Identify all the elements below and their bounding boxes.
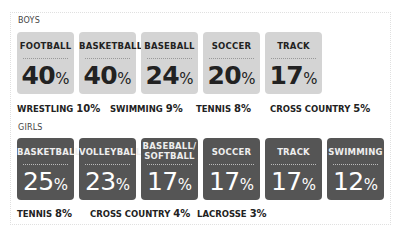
tile-value: 25 — [23, 167, 54, 196]
tile-value: 40 — [21, 61, 55, 90]
tile-name: SOCCER — [203, 147, 260, 157]
boys-tile-basketball: BASKETBALL 40% — [79, 32, 136, 94]
tile-unit: % — [55, 70, 69, 88]
tile-unit: % — [240, 176, 254, 194]
boys-other-tennis: TENNIS 8% — [196, 103, 251, 114]
tile-name: BASEBALL — [141, 41, 198, 51]
tile-value: 40 — [83, 61, 117, 90]
tile-divider — [271, 58, 316, 59]
tile-unit: % — [116, 176, 130, 194]
other-name: CROSS COUNTRY — [90, 209, 170, 219]
tile-name: TRACK — [265, 41, 322, 51]
tile-divider — [209, 58, 254, 59]
tile-divider — [23, 58, 68, 59]
girls-other-cross-country: CROSS COUNTRY 4% — [90, 208, 190, 219]
tile-divider — [209, 164, 254, 165]
tile-name-line2: SOFTBALL — [144, 151, 194, 161]
tile-value: 20 — [207, 61, 241, 90]
other-value: 8% — [55, 208, 72, 219]
tile-unit: % — [179, 70, 193, 88]
other-name: LACROSSE — [197, 209, 247, 219]
tile-name: VOLLEYBALL — [79, 147, 136, 157]
boys-other-cross-country: CROSS COUNTRY 5% — [270, 103, 370, 114]
boys-tile-track: TRACK 17% — [265, 32, 322, 94]
tile-value: 17 — [271, 167, 302, 196]
girls-tile-track: TRACK 17% — [265, 138, 322, 200]
tile-name: FOOTBALL — [17, 41, 74, 51]
tile-unit: % — [117, 70, 131, 88]
tile-unit: % — [178, 176, 192, 194]
tile-divider — [147, 58, 192, 59]
boys-other-wrestling: WRESTLING 10% — [17, 103, 100, 114]
boys-section-label: BOYS — [18, 16, 40, 25]
tile-divider — [147, 164, 192, 165]
other-value: 8% — [234, 103, 251, 114]
girls-tile-swimming: SWIMMING 12% — [327, 138, 384, 200]
other-name: CROSS COUNTRY — [270, 104, 350, 114]
tile-unit: % — [54, 176, 68, 194]
tile-unit: % — [303, 70, 317, 88]
tile-value: 17 — [269, 61, 303, 90]
girls-tile-baseball-softball: BASEBALL/SOFTBALL 17% — [141, 138, 198, 200]
tile-name: SWIMMING — [327, 147, 384, 157]
tile-divider — [23, 164, 68, 165]
tile-value: 17 — [147, 167, 178, 196]
tile-name-line1: BASEBALL/ — [143, 141, 197, 151]
tile-value: 23 — [85, 167, 116, 196]
tile-unit: % — [364, 176, 378, 194]
tile-unit: % — [241, 70, 255, 88]
girls-tile-soccer: SOCCER 17% — [203, 138, 260, 200]
girls-other-lacrosse: LACROSSE 3% — [197, 208, 267, 219]
tile-name: BASKETBALL — [79, 41, 136, 51]
tile-name: SOCCER — [203, 41, 260, 51]
girls-section-label: GIRLS — [18, 123, 43, 132]
other-value: 4% — [173, 208, 190, 219]
other-value: 5% — [353, 103, 370, 114]
boys-tile-football: FOOTBALL 40% — [17, 32, 74, 94]
tile-unit: % — [302, 176, 316, 194]
tile-divider — [271, 164, 316, 165]
boys-other-swimming: SWIMMING 9% — [110, 103, 183, 114]
other-value: 9% — [166, 103, 183, 114]
other-name: TENNIS — [17, 209, 52, 219]
tile-divider — [85, 164, 130, 165]
girls-tile-basketball: BASKETBALL 25% — [17, 138, 74, 200]
tile-value: 17 — [209, 167, 240, 196]
girls-other-tennis: TENNIS 8% — [17, 208, 72, 219]
other-value: 10% — [76, 103, 100, 114]
tile-name: BASKETBALL — [17, 147, 74, 157]
other-name: WRESTLING — [17, 104, 73, 114]
tile-divider — [85, 58, 130, 59]
tile-name: BASEBALL/SOFTBALL — [141, 141, 198, 161]
tile-value: 12 — [333, 167, 364, 196]
tile-value: 24 — [145, 61, 179, 90]
other-name: TENNIS — [196, 104, 231, 114]
boys-tile-baseball: BASEBALL 24% — [141, 32, 198, 94]
other-name: SWIMMING — [110, 104, 163, 114]
tile-name: TRACK — [265, 147, 322, 157]
girls-tile-volleyball: VOLLEYBALL 23% — [79, 138, 136, 200]
other-value: 3% — [250, 208, 267, 219]
boys-tile-soccer: SOCCER 20% — [203, 32, 260, 94]
tile-divider — [333, 164, 378, 165]
